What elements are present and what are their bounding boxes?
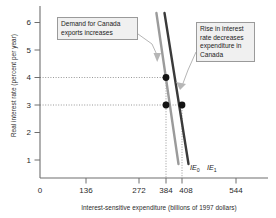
ytick-label-3: 3 <box>17 101 31 110</box>
data-point-384-4 <box>163 74 170 81</box>
xtick-label-136: 136 <box>73 186 99 195</box>
ytick-label-1: 1 <box>17 156 31 165</box>
curve-label-ie1: IE1 <box>207 163 217 173</box>
curve-label-ie1-text: IE <box>207 163 214 172</box>
y-axis-title: Real interest rate (percent per year) <box>10 21 17 151</box>
y-axis-ticks <box>35 23 41 161</box>
annotation-rate-line-1: Rise in interest <box>200 25 251 34</box>
x-axis-ticks <box>86 178 236 184</box>
annotation-rate-line-2: rate decreases <box>200 34 251 43</box>
xtick-label-272: 272 <box>126 186 152 195</box>
curve-label-ie0-text: IE <box>190 163 197 172</box>
xtick-label-408: 408 <box>173 186 199 195</box>
curve-label-ie1-sub: 1 <box>214 167 217 173</box>
annotation-demand-increase: Demand for Canada exports increases <box>57 17 138 40</box>
xtick-label-0: 0 <box>27 186 53 195</box>
annotation-rate-rise: Rise in interest rate decreases expendit… <box>196 22 255 62</box>
curve-label-ie0-sub: 0 <box>197 167 200 173</box>
xtick-label-544: 544 <box>223 186 249 195</box>
ytick-label-5: 5 <box>17 46 31 55</box>
annotation-arrow-demand <box>138 34 161 62</box>
ytick-label-6: 6 <box>17 18 31 27</box>
ytick-label-4: 4 <box>17 73 31 82</box>
curve-label-ie0: IE0 <box>190 163 200 173</box>
annotation-rate-line-4: Canada <box>200 51 251 60</box>
annotation-demand-line-1: Demand for Canada <box>61 20 134 29</box>
annotation-demand-line-2: exports increases <box>61 29 134 38</box>
chart-figure: 6 5 4 3 2 1 0 136 272 384 408 544 Real i… <box>0 0 276 218</box>
guide-lines <box>40 78 182 179</box>
data-point-384-3 <box>163 102 170 109</box>
ytick-label-2: 2 <box>17 128 31 137</box>
annotation-rate-line-3: expenditure in <box>200 42 251 51</box>
data-point-408-3 <box>179 102 186 109</box>
annotation-arrow-rate <box>176 52 196 90</box>
x-axis-title: Interest-sensitive expenditure (billions… <box>44 204 274 211</box>
